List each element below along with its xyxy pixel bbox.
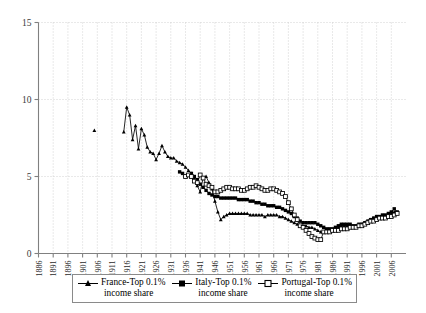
data-point-marker <box>125 105 129 109</box>
data-point-marker <box>343 223 346 226</box>
data-point-marker <box>201 176 205 180</box>
data-point-marker <box>313 221 316 224</box>
data-point-marker <box>154 158 158 162</box>
data-point-marker <box>189 175 193 179</box>
legend-label-italy: Italy-Top 0.1% income share <box>195 277 251 299</box>
data-point-marker <box>234 196 237 199</box>
data-point-marker <box>213 195 216 198</box>
data-point-marker <box>219 196 222 199</box>
data-point-marker <box>322 226 325 229</box>
data-point-marker <box>207 192 210 195</box>
data-point-marker <box>263 203 266 206</box>
income-share-line-chart: 0510151886189118961901190619111916192119… <box>0 0 426 313</box>
data-point-marker <box>213 199 217 203</box>
y-axis-tick-label: 0 <box>27 249 32 259</box>
chart-legend: France-Top 0.1% income share Italy-Top 0… <box>72 274 357 303</box>
data-point-marker <box>284 195 288 199</box>
legend-label-portugal-line1: Portugal-Top 0.1% <box>281 277 352 287</box>
series-line <box>124 107 397 232</box>
data-point-marker <box>157 152 161 156</box>
data-point-marker <box>248 199 251 202</box>
data-point-marker <box>237 198 240 201</box>
y-axis-tick-label: 5 <box>27 172 32 182</box>
data-point-marker <box>260 203 263 206</box>
data-point-marker <box>134 124 138 128</box>
data-point-marker <box>225 196 228 199</box>
chart-container: 0510151886189118961901190619111916192119… <box>0 0 426 313</box>
data-point-marker <box>275 206 278 209</box>
data-point-marker <box>278 206 281 209</box>
data-point-marker <box>178 170 181 173</box>
series-france <box>92 105 399 233</box>
data-point-marker <box>319 238 323 242</box>
legend-label-portugal: Portugal-Top 0.1% income share <box>281 277 352 299</box>
data-point-marker <box>307 221 310 224</box>
data-point-marker <box>284 209 287 212</box>
data-point-marker <box>122 130 126 134</box>
data-point-marker <box>257 201 260 204</box>
data-point-marker <box>304 221 307 224</box>
data-point-marker <box>272 204 275 207</box>
data-point-marker <box>198 190 202 194</box>
series-portugal <box>184 173 399 241</box>
data-point-marker <box>128 113 132 117</box>
data-point-marker <box>254 201 257 204</box>
data-point-marker <box>216 210 220 214</box>
data-point-marker <box>140 127 144 131</box>
data-point-marker <box>145 145 149 149</box>
data-point-marker <box>92 128 96 132</box>
data-point-marker <box>137 147 141 151</box>
x-axis-tick-label: 1891 <box>49 261 58 277</box>
legend-item-france[interactable]: France-Top 0.1% income share <box>77 277 165 299</box>
data-point-marker <box>289 207 293 211</box>
data-point-marker <box>393 207 396 210</box>
france-legend-marker-triangle-icon <box>77 278 99 289</box>
data-point-marker <box>222 196 225 199</box>
data-point-marker <box>269 204 272 207</box>
data-point-marker <box>266 204 269 207</box>
data-point-marker <box>216 195 219 198</box>
portugal-legend-marker-open-square-icon <box>257 278 279 289</box>
data-point-marker <box>160 144 164 148</box>
data-point-marker <box>195 181 199 185</box>
data-point-marker <box>310 221 313 224</box>
data-point-marker <box>228 196 231 199</box>
italy-legend-marker-square-icon <box>171 278 193 289</box>
x-axis-tick-label: 1996 <box>358 261 367 277</box>
data-point-marker <box>243 198 246 201</box>
legend-label-france-line1: France-Top 0.1% <box>101 277 165 287</box>
data-point-marker <box>340 223 343 226</box>
data-point-marker <box>210 185 214 189</box>
legend-label-france: France-Top 0.1% income share <box>101 277 165 299</box>
x-axis-tick-label: 1886 <box>35 261 44 277</box>
legend-label-italy-line1: Italy-Top 0.1% <box>195 277 251 287</box>
y-axis-tick-label: 15 <box>22 18 32 28</box>
data-point-marker <box>231 196 234 199</box>
data-point-marker <box>281 207 284 210</box>
data-point-marker <box>246 198 249 201</box>
data-point-marker <box>287 201 291 205</box>
legend-label-portugal-line2: income share <box>281 288 352 299</box>
data-point-marker <box>142 133 146 137</box>
data-point-marker <box>163 150 167 154</box>
data-point-marker <box>204 189 207 192</box>
data-point-marker <box>251 199 254 202</box>
data-point-marker <box>295 218 299 222</box>
data-point-marker <box>395 212 399 216</box>
data-point-marker <box>131 138 135 142</box>
x-axis-tick-label: 2001 <box>373 261 382 277</box>
data-point-marker <box>316 223 319 226</box>
data-point-marker <box>319 224 322 227</box>
x-axis-tick-label: 2006 <box>388 261 397 277</box>
legend-item-portugal[interactable]: Portugal-Top 0.1% income share <box>257 277 352 299</box>
y-axis-tick-label: 10 <box>22 95 32 105</box>
data-point-marker <box>240 198 243 201</box>
legend-label-italy-line2: income share <box>195 288 251 299</box>
data-point-marker <box>292 213 296 217</box>
legend-label-france-line2: income share <box>101 288 165 299</box>
legend-item-italy[interactable]: Italy-Top 0.1% income share <box>171 277 251 299</box>
